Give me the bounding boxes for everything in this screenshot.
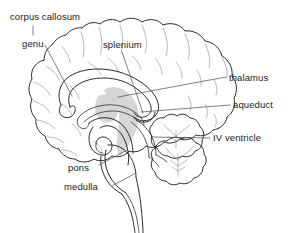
leader-pons [99,150,127,165]
arbor-vitae-upper [164,125,190,148]
brain-diagram-svg [0,0,295,233]
leader-iv-ventricle [152,137,210,138]
leader-genu [45,45,72,96]
label-genu: genu [22,38,44,49]
medulla-spinal-cord [122,177,143,233]
cerebellum-upper [150,114,204,158]
arbor-vitae-lower [165,147,193,176]
brain-diagram-figure: corpus callosum genu splenium thalamus a… [0,0,295,233]
label-medulla: medulla [64,181,98,192]
leader-aqueduct [141,105,230,112]
label-corpus-callosum: corpus callosum [10,11,80,22]
label-iv-ventricle: IV ventricle [213,132,261,143]
label-aqueduct: aqueduct [233,99,273,110]
label-splenium: splenium [103,39,142,50]
leader-medulla [112,173,136,186]
hypothalamus-region [89,127,112,155]
label-thalamus: thalamus [229,72,268,83]
cerebellum-lower [151,137,206,184]
label-pons: pons [68,162,89,173]
